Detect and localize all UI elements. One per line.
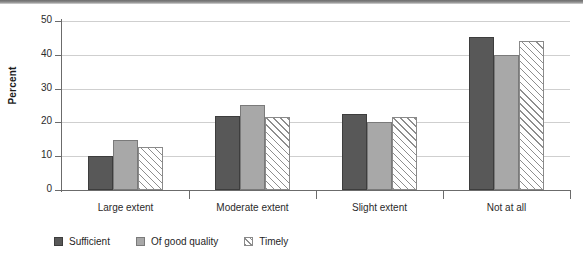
bar [494,55,519,190]
x-axis-tick-mark [443,190,444,199]
chart-legend: SufficientOf good qualityTimely [54,236,288,247]
legend-item-of-good-quality[interactable]: Of good quality [136,236,218,247]
y-axis-tick-label: 20 [8,116,52,126]
bar [367,122,392,190]
legend-label: Timely [259,236,288,247]
bar [113,140,138,190]
bar [392,117,417,190]
legend-label: Sufficient [69,236,110,247]
legend-swatch-icon [244,237,253,246]
top-border-rule [0,0,583,4]
x-axis-tick-mark [316,190,317,199]
bar [88,156,113,190]
bar [138,147,163,190]
legend-item-timely[interactable]: Timely [244,236,288,247]
y-axis-tick-label: 30 [8,83,52,93]
plot-area [62,21,570,190]
category-label-large-extent: Large extent [62,202,189,213]
category-label-not-at-all: Not at all [443,202,570,213]
x-axis-end-tick [570,190,571,199]
y-axis-tick-label: 40 [8,49,52,59]
bar [240,105,265,190]
category-label-slight-extent: Slight extent [316,202,443,213]
legend-swatch-icon [136,237,145,246]
legend-item-sufficient[interactable]: Sufficient [54,236,110,247]
bar [469,37,494,190]
bar [215,116,240,190]
y-axis-tick-label: 10 [8,150,52,160]
y-axis-tick-label: 50 [8,15,52,25]
legend-swatch-icon [54,237,63,246]
bar [519,41,544,190]
y-axis-tick-mark [55,190,63,191]
gridline [62,21,570,22]
legend-label: Of good quality [151,236,218,247]
bar [265,117,290,190]
bar-chart-figure: Percent 01020304050 Large extentModerate… [0,0,583,263]
bar [342,114,367,190]
y-axis-tick-label: 0 [8,184,52,194]
x-axis-tick-mark [189,190,190,199]
category-label-moderate-extent: Moderate extent [189,202,316,213]
